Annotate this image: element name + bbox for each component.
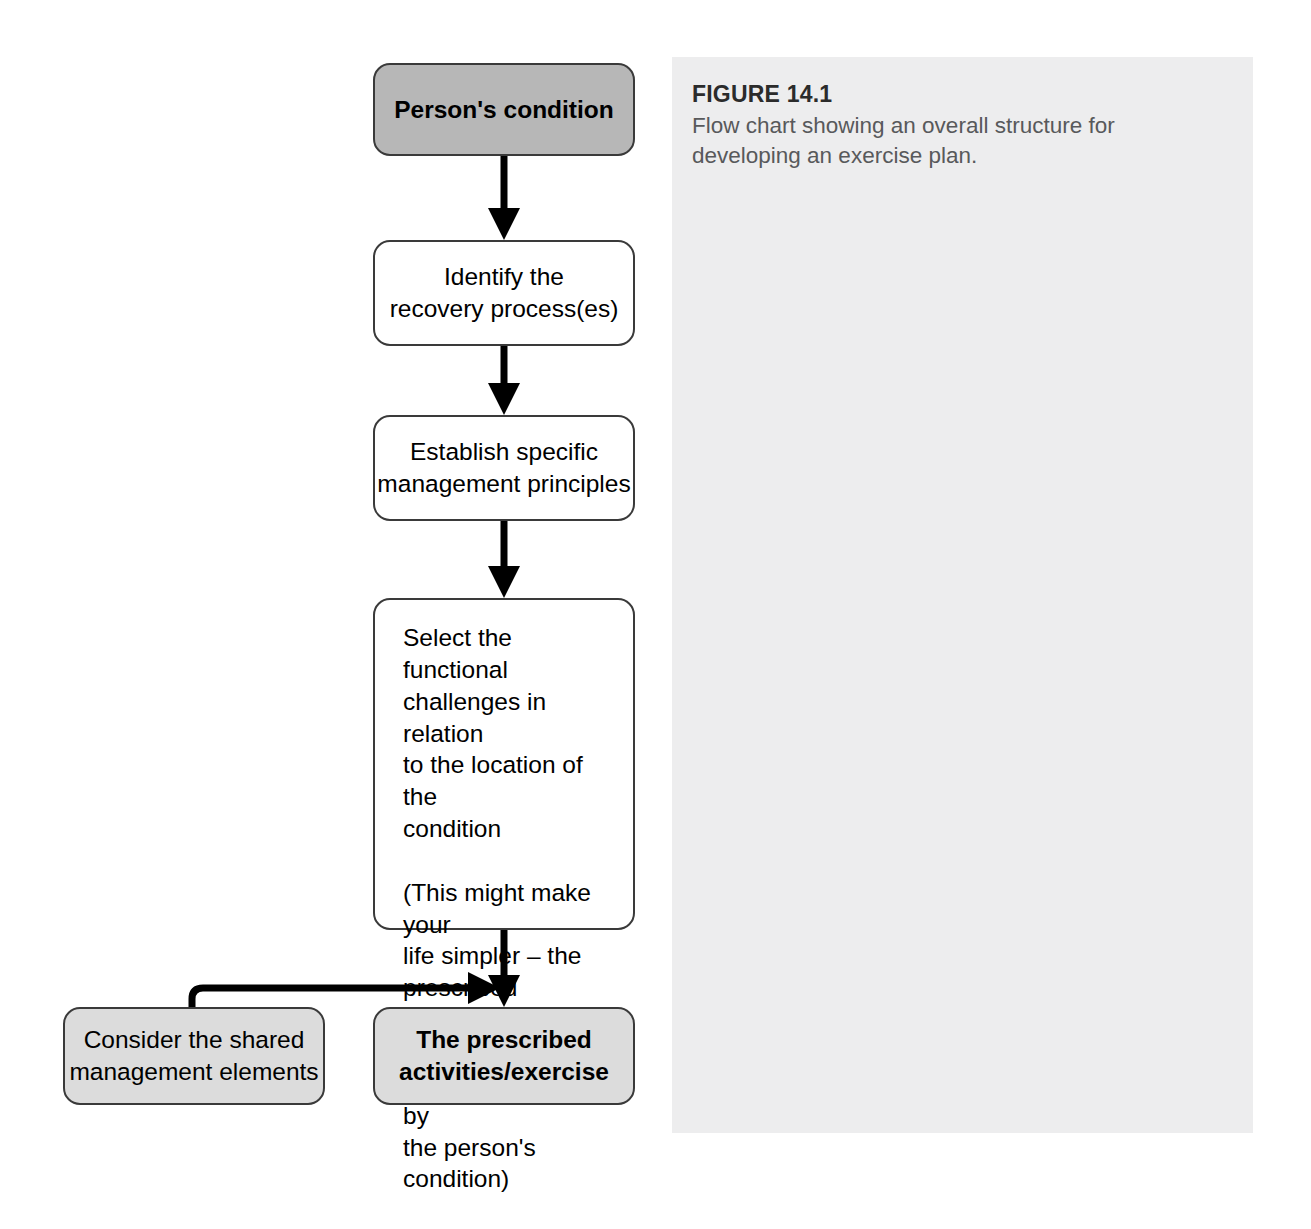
flow-node-label: Establish specific management principles [375, 436, 633, 500]
figure-caption-block: FIGURE 14.1 Flow chart showing an overal… [692, 81, 1212, 171]
flow-node-label: Select the functional challenges in rela… [403, 622, 615, 1195]
figure-caption-panel: FIGURE 14.1 Flow chart showing an overal… [672, 57, 1253, 1133]
edge-identify-to-establish [488, 346, 520, 415]
flow-node-label: The prescribed activities/exercise [375, 1024, 633, 1088]
flow-node-select-functional-challenges: Select the functional challenges in rela… [373, 598, 635, 930]
figure-caption-text: Flow chart showing an overall structure … [692, 111, 1197, 170]
figure-number-label: FIGURE 14.1 [692, 81, 1212, 108]
flow-node-consider-shared-management-elements: Consider the shared management elements [63, 1007, 325, 1105]
flow-node-label: Identify the recovery process(es) [375, 261, 633, 325]
flow-node-identify-recovery-process: Identify the recovery process(es) [373, 240, 635, 346]
flow-node-prescribed-activities-exercise: The prescribed activities/exercise [373, 1007, 635, 1105]
flowchart: Person's condition Identify the recovery… [0, 0, 672, 1229]
figure-page: Person's condition Identify the recovery… [0, 0, 1311, 1229]
flow-node-establish-management-principles: Establish specific management principles [373, 415, 635, 521]
edge-establish-to-select [488, 521, 520, 598]
flow-node-label: Consider the shared management elements [65, 1024, 323, 1088]
flow-node-label: Person's condition [375, 94, 633, 126]
flow-node-persons-condition: Person's condition [373, 63, 635, 156]
edge-condition-to-identify [488, 156, 520, 240]
